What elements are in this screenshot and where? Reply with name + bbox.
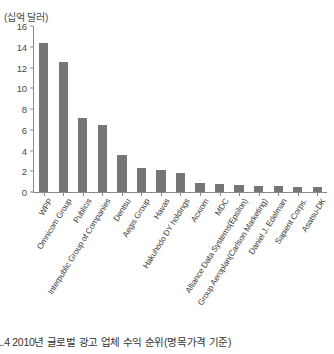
y-axis-tick-mark: [30, 26, 33, 27]
y-axis-tick-mark: [30, 192, 33, 193]
x-axis-tick-mark: [44, 192, 45, 196]
x-axis-tick-mark: [141, 192, 142, 196]
bar-series: [34, 26, 327, 192]
bar-slot: [112, 26, 132, 192]
y-axis-tick-mark: [30, 171, 33, 172]
x-axis-tick-mark: [298, 192, 299, 196]
x-axis-tick-mark: [239, 192, 240, 196]
y-axis-tick-mark: [30, 150, 33, 151]
bar-slot: [34, 26, 54, 192]
bar: [215, 184, 224, 192]
bar-slot: [249, 26, 269, 192]
bar-slot: [54, 26, 74, 192]
y-axis-tick-label: 14: [3, 41, 27, 52]
y-axis-tick-mark: [30, 67, 33, 68]
bar: [195, 183, 204, 192]
plot-area: 0246810121416: [33, 26, 327, 193]
x-axis-tick-mark: [180, 192, 181, 196]
bar: [176, 173, 185, 192]
bar: [234, 185, 243, 192]
figure-caption: 1.4 2010년 글로벌 광고 업체 수익 순위(명목가격 기준): [0, 334, 334, 349]
bar-slot: [210, 26, 230, 192]
y-axis-tick-label: 10: [3, 83, 27, 94]
bar: [98, 125, 107, 192]
bar: [117, 155, 126, 192]
y-axis-tick-mark: [30, 109, 33, 110]
y-axis-tick-mark: [30, 88, 33, 89]
bar-slot: [229, 26, 249, 192]
bar-slot: [307, 26, 327, 192]
x-axis-tick-mark: [122, 192, 123, 196]
x-axis-tick-mark: [83, 192, 84, 196]
y-axis-tick-label: 6: [3, 124, 27, 135]
bar: [137, 168, 146, 192]
bar-slot: [132, 26, 152, 192]
x-axis-category-label: WPP: [37, 197, 54, 217]
bar-slot: [190, 26, 210, 192]
bar-slot: [73, 26, 93, 192]
x-axis-tick-mark: [317, 192, 318, 196]
y-axis-tick-label: 4: [3, 145, 27, 156]
x-axis-category-label: Acxiom: [189, 197, 210, 224]
x-axis-tick-mark: [161, 192, 162, 196]
x-axis-tick-mark: [102, 192, 103, 196]
bar-slot: [151, 26, 171, 192]
bar-slot: [171, 26, 191, 192]
x-axis-tick-mark: [200, 192, 201, 196]
bar: [59, 62, 68, 192]
x-axis-tick-mark: [278, 192, 279, 196]
x-axis-tick-mark: [259, 192, 260, 196]
chart-figure: (십억 달러) 0246810121416 WPPOmnicom GroupPu…: [0, 0, 334, 354]
bar: [39, 43, 48, 192]
x-axis-category-label: Havas: [152, 197, 172, 221]
x-axis-tick-mark: [220, 192, 221, 196]
y-axis-tick-label: 8: [3, 104, 27, 115]
bar-slot: [268, 26, 288, 192]
bar: [78, 118, 87, 192]
y-axis-tick-label: 12: [3, 62, 27, 73]
y-axis-tick-label: 16: [3, 21, 27, 32]
bar-slot: [288, 26, 308, 192]
y-axis-tick-mark: [30, 46, 33, 47]
x-axis-category-label: MDC: [213, 197, 230, 217]
y-axis-tick-mark: [30, 129, 33, 130]
bar-slot: [93, 26, 113, 192]
bar: [156, 170, 165, 192]
x-axis-category-labels: WPPOmnicom GroupPublicisInterpublic Grou…: [33, 197, 333, 325]
y-axis-tick-label: 0: [3, 187, 27, 198]
x-axis-tick-mark: [63, 192, 64, 196]
y-axis-tick-label: 2: [3, 166, 27, 177]
